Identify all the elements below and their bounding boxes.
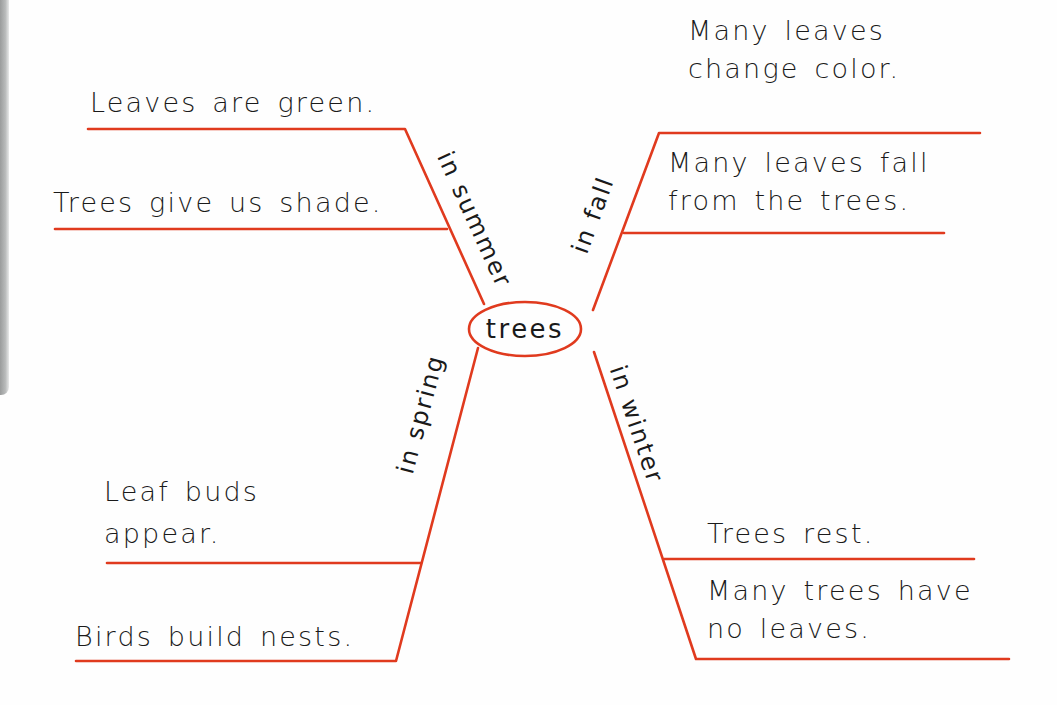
- fact-fall-2-line1: Many leaves fall: [668, 146, 930, 180]
- fact-fall-2-line2: from the trees.: [668, 184, 930, 218]
- fact-fall-1-line1: Many leaves: [688, 14, 900, 48]
- fact-spring-2: Birds build nests.: [75, 620, 354, 654]
- fact-fall-2: Many leaves fall from the trees.: [668, 146, 930, 218]
- fact-spring-1-line2: appear.: [104, 517, 259, 551]
- fact-winter-1: Trees rest.: [707, 517, 874, 551]
- fact-spring-1: Leaf buds appear.: [104, 475, 259, 551]
- fact-fall-1: Many leaves change color.: [688, 14, 900, 86]
- fact-fall-1-line2: change color.: [688, 52, 900, 86]
- fact-spring-1-line1: Leaf buds: [104, 475, 259, 509]
- fact-winter-2: Many trees have no leaves.: [707, 574, 973, 646]
- fact-winter-2-line1: Many trees have: [707, 574, 973, 608]
- fact-winter-2-line2: no leaves.: [707, 612, 973, 646]
- fact-summer-1: Leaves are green.: [90, 86, 376, 120]
- center-topic: trees: [469, 310, 581, 348]
- fact-summer-2: Trees give us shade.: [53, 186, 383, 220]
